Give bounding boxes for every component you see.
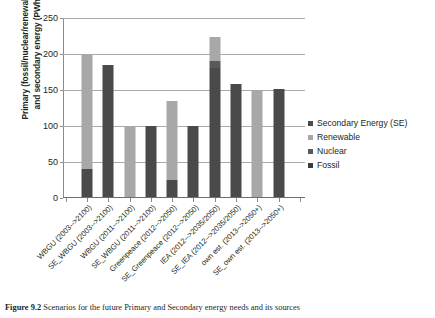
y-axis-tick-label: 50 [48, 157, 58, 167]
bar-slot [247, 18, 268, 198]
bar-segment [81, 169, 92, 198]
bar[interactable] [273, 89, 284, 198]
bar[interactable] [103, 65, 114, 198]
bar-segment [188, 126, 199, 198]
x-axis-tick-mark [66, 198, 67, 202]
bar-group [63, 18, 305, 198]
bar[interactable] [188, 126, 199, 198]
bar-segment [209, 61, 220, 68]
bar-segment [103, 65, 114, 198]
bar-slot [98, 18, 119, 198]
figure-caption-number: Figure 9.2 [5, 303, 41, 312]
legend-label: Nuclear [317, 146, 347, 156]
legend-item[interactable]: Secondary Energy (SE) [308, 116, 432, 130]
legend-label: Secondary Energy (SE) [317, 118, 407, 128]
bar-slot [119, 18, 140, 198]
y-axis-tick-mark [60, 198, 63, 199]
x-axis-tick-mark [215, 198, 216, 202]
y-axis-tick-label: 200 [43, 49, 58, 59]
bar-segment [81, 54, 92, 169]
y-axis-tick-label: 150 [43, 85, 58, 95]
x-axis-tick-mark [151, 198, 152, 202]
x-axis-tick-mark [279, 198, 280, 202]
bar-segment [273, 89, 284, 198]
bar-slot [225, 18, 246, 198]
y-axis-title-line-2: and secondary energy (PWh) [32, 0, 44, 148]
legend-item[interactable]: Fossil [308, 158, 432, 172]
chart-legend: Secondary Energy (SE)RenewableNuclearFos… [308, 116, 432, 172]
x-axis-tick-mark [236, 198, 237, 202]
bar-slot [76, 18, 97, 198]
bar[interactable] [252, 90, 263, 198]
bar-segment [209, 68, 220, 198]
bar[interactable] [209, 37, 220, 198]
legend-swatch-icon [308, 149, 313, 154]
x-axis-tick-mark [87, 198, 88, 202]
figure-caption: Figure 9.2 Scenarios for the future Prim… [5, 302, 433, 313]
x-axis-tick-mark [130, 198, 131, 202]
legend-item[interactable]: Nuclear [308, 144, 432, 158]
bar[interactable] [231, 84, 242, 198]
legend-swatch-icon [308, 163, 313, 168]
bar[interactable] [124, 126, 135, 198]
plot-area: 050100150200250 [63, 18, 305, 198]
figure-caption-text: Scenarios for the future Primary and Sec… [43, 303, 300, 312]
y-axis-tick-label: 0 [53, 193, 58, 203]
legend-item[interactable]: Renewable [308, 130, 432, 144]
bar-segment [167, 180, 178, 198]
bar-slot [183, 18, 204, 198]
x-axis-tick-mark [257, 198, 258, 202]
x-axis-tick-mark [172, 198, 173, 202]
legend-swatch-icon [308, 121, 313, 126]
bar[interactable] [81, 54, 92, 198]
bar[interactable] [167, 101, 178, 198]
bar-slot [268, 18, 289, 198]
bar-segment [209, 37, 220, 61]
bar-segment [124, 126, 135, 198]
bar-segment [231, 84, 242, 198]
x-axis-tick-mark [108, 198, 109, 202]
x-axis-line [63, 197, 305, 198]
y-axis-tick-label: 100 [43, 121, 58, 131]
bar-slot [140, 18, 161, 198]
y-axis-title-line-1: Primary (fossil/nuclear/renewable) [20, 0, 32, 148]
x-axis-tick-mark [300, 198, 301, 202]
legend-swatch-icon [308, 135, 313, 140]
bar[interactable] [145, 126, 156, 198]
x-axis-tick-mark [193, 198, 194, 202]
legend-label: Renewable [317, 132, 360, 142]
y-axis-tick-label: 250 [43, 13, 58, 23]
bar-slot [162, 18, 183, 198]
bar-segment [252, 90, 263, 198]
bar-segment [145, 126, 156, 198]
legend-label: Fossil [317, 160, 339, 170]
bar-segment [167, 101, 178, 180]
figure-container: Primary (fossil/nuclear/renewable) and s… [0, 0, 435, 318]
bar-slot [204, 18, 225, 198]
